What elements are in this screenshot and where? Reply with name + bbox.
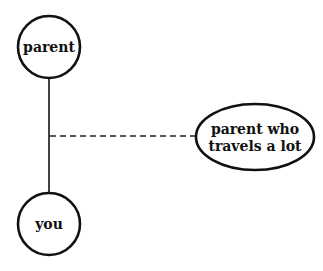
node-parent: parent	[18, 16, 80, 78]
node-parent-who-travels-label-line2: travels a lot	[208, 138, 302, 154]
node-you: you	[18, 193, 80, 255]
node-you-label: you	[34, 216, 63, 232]
node-parent-label: parent	[23, 39, 75, 55]
family-diagram: parent you parent who travels a lot	[0, 0, 323, 271]
node-parent-who-travels-label-line1: parent who	[211, 121, 299, 137]
node-parent-who-travels: parent who travels a lot	[196, 104, 314, 170]
